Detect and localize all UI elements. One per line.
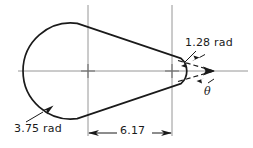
theta-arrowhead — [197, 78, 206, 84]
theta-leader — [208, 79, 214, 83]
large-radius-label: 3.75 rad — [14, 122, 62, 135]
small-radius-arrowhead-opposite — [191, 56, 199, 62]
large-radius-arrowhead — [42, 106, 54, 115]
large-radius-arrowhead-group — [42, 106, 54, 115]
length-dimension-label: 6.17 — [120, 124, 145, 137]
large-radius-leader-line — [26, 112, 43, 122]
theta-arrowheads — [197, 78, 206, 84]
small-radius-label: 1.28 rad — [185, 36, 233, 49]
small-radius-arrow-tail — [200, 55, 206, 58]
small-radius-arrow-tail-line — [200, 55, 206, 58]
large-radius-leader — [26, 112, 43, 122]
angle-symbol-label: θ — [204, 85, 211, 98]
theta-leader-line — [208, 79, 214, 83]
technical-drawing-canvas: 1.28 rad 3.75 rad 6.17 θ — [0, 0, 253, 148]
